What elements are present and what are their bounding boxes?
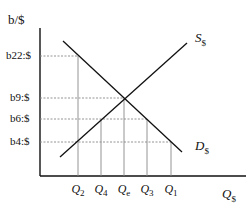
price-label-b6: b6:$ (10, 112, 30, 124)
demand-label: D$ (195, 138, 209, 156)
demand-curve (63, 41, 182, 152)
qty-label-q2: Q2 (71, 182, 84, 198)
qty-label-q4: Q4 (94, 182, 107, 198)
qty-label-qe: Qe (118, 182, 131, 198)
qty-label-q3: Q3 (140, 182, 153, 198)
price-label-b22: b22:$ (6, 49, 31, 61)
supply-label: S$ (195, 30, 206, 48)
diagram-canvas (0, 0, 250, 210)
supply-curve (60, 43, 187, 157)
qty-label-q1: Q1 (164, 182, 177, 198)
x-axis-label: Q$ (222, 186, 236, 204)
price-label-b4: b4:$ (10, 135, 30, 147)
y-axis-label: b/$ (8, 12, 25, 28)
price-label-b9: b9:$ (10, 91, 30, 103)
